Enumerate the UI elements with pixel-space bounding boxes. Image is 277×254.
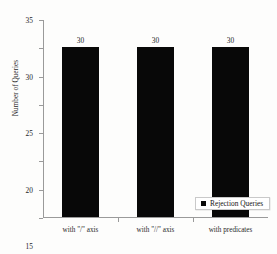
x-axis-line (43, 217, 268, 218)
chart-legend: Rejection Queries (195, 197, 270, 210)
y-axis-tick: 20 (39, 105, 43, 106)
bar-chart: Number of Queries 05101520253035 303030 … (0, 0, 277, 254)
legend-swatch-icon (201, 201, 206, 206)
y-axis-tick-label: 35 (26, 16, 33, 25)
y-axis-tick: 5 (39, 190, 43, 191)
x-axis-category-label: with "/" axis (63, 226, 99, 234)
y-axis-tick: 30 (39, 48, 43, 49)
y-axis-tick-label: 30 (26, 72, 33, 81)
y-axis-tick: 35 (39, 20, 43, 21)
y-axis-title: Number of Queries (12, 33, 20, 143)
plot-area: 05101520253035 303030 Rejection Queries (43, 20, 268, 218)
x-axis-tick (118, 218, 119, 222)
y-axis-tick: 15 (39, 133, 43, 134)
y-axis-tick-label: 15 (26, 242, 33, 251)
y-axis-tick: 0 (39, 218, 43, 219)
y-axis-tick-label: 25 (26, 129, 33, 138)
x-axis-tick (193, 218, 194, 222)
y-axis-tick: 10 (39, 161, 43, 162)
y-axis-line (43, 20, 44, 218)
bar (62, 47, 99, 217)
bar (212, 47, 249, 217)
y-axis-tick-label: 20 (26, 185, 33, 194)
x-axis-category-label: with "//" axis (137, 226, 175, 234)
bar (137, 47, 174, 217)
bar-value-label: 30 (227, 36, 234, 45)
bar-value-label: 30 (152, 36, 159, 45)
y-axis-tick: 25 (39, 77, 43, 78)
bar-value-label: 30 (77, 36, 84, 45)
legend-label: Rejection Queries (210, 200, 263, 207)
x-axis-category-label: with predicates (209, 226, 253, 234)
